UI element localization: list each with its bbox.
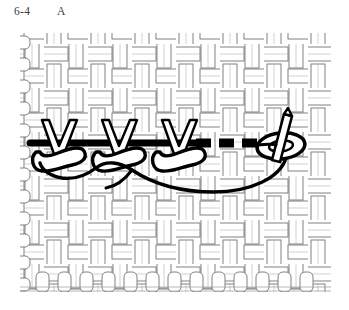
stitch-chain-loops [33, 148, 206, 171]
stitch-illustration [0, 0, 349, 310]
thread-through-eye [258, 144, 276, 145]
figure-root: 6-4 A [0, 0, 349, 310]
